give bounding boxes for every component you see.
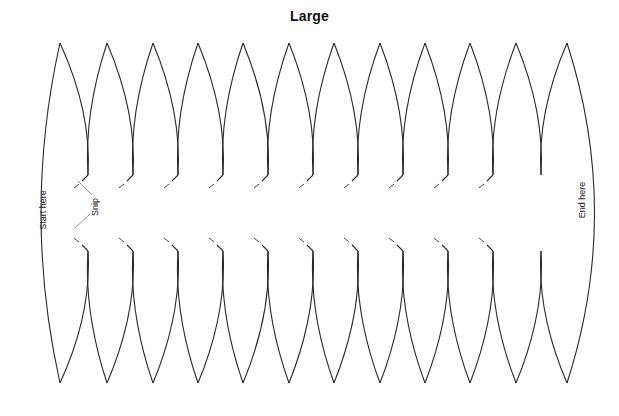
gore-edge <box>312 43 334 175</box>
gore-edge <box>107 251 133 383</box>
glue-tab-lower <box>172 245 178 251</box>
gore-edge <box>267 43 289 175</box>
gore-edge <box>153 43 178 175</box>
gore-edge <box>492 251 516 383</box>
glue-tab-upper-dash <box>164 184 169 188</box>
cut-pattern: Snip Start here End here <box>0 0 619 416</box>
gore-edge <box>312 251 334 383</box>
glue-tab-lower-dash <box>209 238 214 242</box>
glue-tab-lower <box>397 245 403 251</box>
glue-tab-lower-dash <box>74 238 79 242</box>
glue-tab-upper <box>442 175 448 181</box>
gore-edge <box>470 251 494 383</box>
glue-tab-upper-dash <box>209 184 214 188</box>
gore-edge <box>516 43 541 175</box>
gore-edge <box>541 251 567 383</box>
gore-edge <box>132 43 153 175</box>
gore-edge <box>380 251 404 383</box>
gore-edge <box>87 43 107 175</box>
gore-edge <box>380 43 404 175</box>
start-here-label: Start here <box>38 190 48 230</box>
glue-tab-upper <box>127 175 133 181</box>
gore-edge <box>243 251 268 383</box>
glue-tab-lower-dash <box>299 238 304 242</box>
glue-tab-upper <box>262 175 268 181</box>
glue-tab-lower <box>487 245 493 251</box>
glue-tab-upper <box>307 175 313 181</box>
glue-tab-lower <box>82 245 88 251</box>
glue-tab-upper-dash <box>299 184 304 188</box>
gore-edge <box>177 251 198 383</box>
glue-tab-lower-dash <box>254 238 259 242</box>
glue-tab-upper <box>82 175 88 181</box>
snip-line-lower <box>75 214 90 228</box>
gore-edge <box>60 251 88 383</box>
glue-tab-upper-dash <box>74 184 79 188</box>
glue-tab-lower-dash <box>164 238 169 242</box>
gore-edge <box>334 251 359 383</box>
glue-tab-lower <box>352 245 358 251</box>
gore-edge <box>541 43 567 175</box>
glue-tab-upper <box>352 175 358 181</box>
glue-tab-lower <box>442 245 448 251</box>
snip-line-upper <box>78 181 92 195</box>
gore-edge <box>447 251 470 383</box>
gore-edge <box>425 251 449 383</box>
gore-edge <box>289 43 314 175</box>
gore-edge <box>60 43 88 175</box>
glue-tab-upper-dash <box>119 184 124 188</box>
gore-edge <box>153 251 178 383</box>
glue-tab-upper-dash <box>434 184 439 188</box>
glue-tab-lower <box>217 245 223 251</box>
glue-tab-lower <box>307 245 313 251</box>
end-here-label: End here <box>577 182 587 219</box>
snip-marker: Snip <box>75 181 100 228</box>
gore-edge <box>447 43 470 175</box>
gore-edge <box>289 251 314 383</box>
gore-edge <box>267 251 289 383</box>
gore-edge <box>425 43 449 175</box>
snip-label: Snip <box>90 198 100 216</box>
glue-tab-lower-dash <box>119 238 124 242</box>
glue-tab-lower <box>262 245 268 251</box>
gore-edge <box>198 43 223 175</box>
gore-edge <box>402 251 425 383</box>
gore-edge <box>492 43 516 175</box>
glue-tab-upper-dash <box>254 184 259 188</box>
gore-edge <box>177 43 198 175</box>
glue-tab-lower-dash <box>434 238 439 242</box>
glue-tab-lower-dash <box>344 238 349 242</box>
gore-edge <box>243 43 268 175</box>
gore-edge <box>357 43 380 175</box>
glue-tab-upper <box>217 175 223 181</box>
glue-tab-upper <box>397 175 403 181</box>
gore-edge <box>516 251 541 383</box>
glue-tabs <box>74 175 493 251</box>
gore-edge <box>470 43 494 175</box>
gore-edge <box>198 251 223 383</box>
gore-edge <box>334 43 359 175</box>
glue-tab-upper-dash <box>389 184 394 188</box>
gore-edge <box>357 251 380 383</box>
gore-outlines <box>41 43 595 383</box>
gore-edge <box>222 43 243 175</box>
glue-tab-upper-dash <box>344 184 349 188</box>
gore-edge <box>222 251 243 383</box>
glue-tab-upper <box>172 175 178 181</box>
glue-tab-upper <box>487 175 493 181</box>
gore-edge <box>87 251 107 383</box>
gore-edge <box>402 43 425 175</box>
glue-tab-lower-dash <box>389 238 394 242</box>
glue-tab-upper-dash <box>479 184 484 188</box>
gore-edge <box>132 251 153 383</box>
glue-tab-lower <box>127 245 133 251</box>
gore-edge <box>107 43 133 175</box>
glue-tab-lower-dash <box>479 238 484 242</box>
